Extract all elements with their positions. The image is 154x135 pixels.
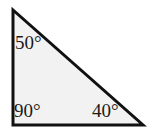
angle-label-base-right: 40° xyxy=(92,101,119,120)
angle-label-apex: 50° xyxy=(15,33,42,52)
angle-label-right-angle: 90° xyxy=(14,101,41,120)
